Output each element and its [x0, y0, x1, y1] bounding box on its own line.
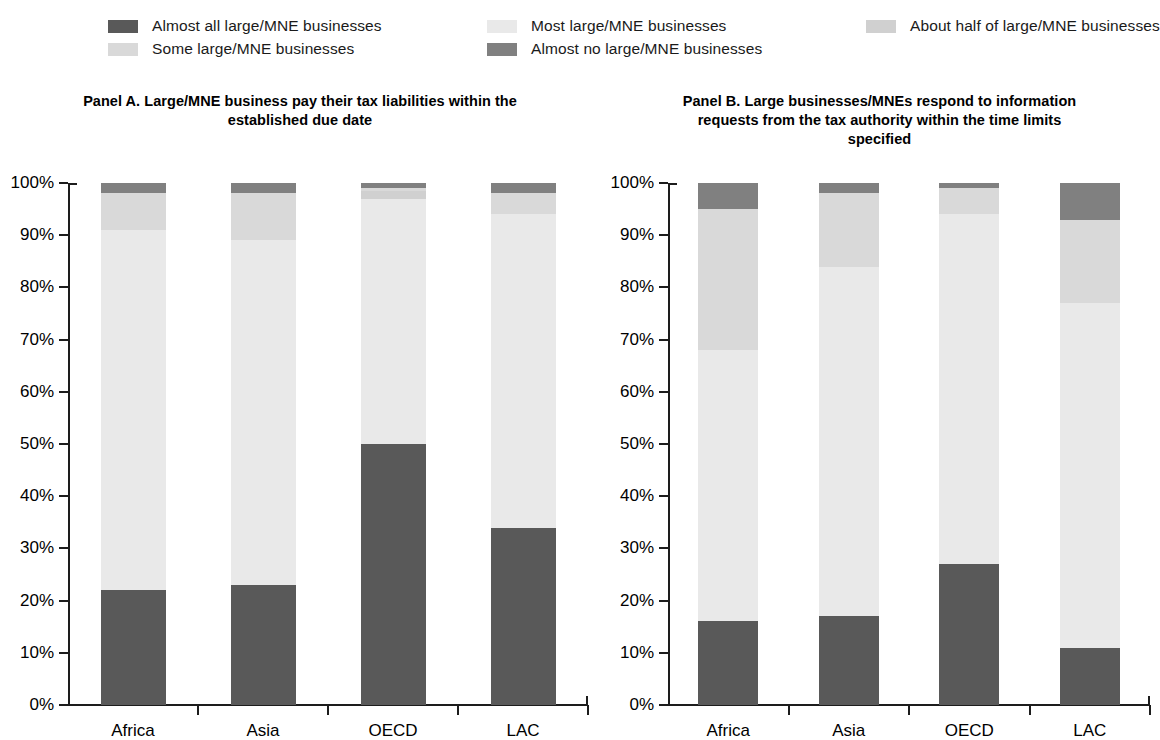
bar-segment: [698, 621, 758, 705]
bar-lac: [491, 183, 556, 705]
bar-asia: [819, 183, 879, 705]
bar-segment: [939, 188, 999, 214]
y-axis-label: 30%: [20, 538, 54, 558]
y-axis-tick: [659, 704, 668, 706]
panel-a: Panel A. Large/MNE business pay their ta…: [0, 92, 600, 130]
x-axis-label-africa: Africa: [707, 721, 750, 740]
bar-segment: [939, 214, 999, 564]
bar-segment: [101, 193, 166, 230]
bar-lac: [1060, 183, 1120, 705]
y-axis-tick: [659, 495, 668, 497]
y-axis-tick: [659, 443, 668, 445]
y-axis-tick: [59, 182, 68, 184]
y-axis-tick: [59, 652, 68, 654]
bar-africa: [101, 183, 166, 705]
bar-segment: [491, 214, 556, 527]
y-axis-tick: [59, 547, 68, 549]
x-axis-tick: [1029, 705, 1031, 715]
bar-segment: [231, 193, 296, 240]
legend-item-most: Most large/MNE businesses: [487, 18, 726, 34]
x-axis-label-africa: Africa: [111, 721, 154, 740]
x-axis-label-oecd: OECD: [945, 721, 994, 740]
y-axis-tick: [59, 286, 68, 288]
y-axis-label: 70%: [620, 330, 654, 350]
legend-label-almost-all: Almost all large/MNE businesses: [152, 18, 382, 34]
bar-segment: [698, 350, 758, 621]
y-axis-label: 100%: [611, 173, 654, 193]
y-axis-label: 80%: [20, 277, 54, 297]
legend-swatch-some: [108, 43, 138, 56]
x-axis-tick: [587, 705, 589, 715]
panel-b-title: Panel B. Large businesses/MNEs respond t…: [600, 92, 1159, 149]
x-axis-label-lac: LAC: [506, 721, 539, 740]
bar-segment: [819, 193, 879, 266]
y-axis-tick: [59, 495, 68, 497]
bar-segment: [1060, 220, 1120, 304]
bar-segment: [231, 585, 296, 705]
bar-segment: [361, 444, 426, 705]
bar-segment: [698, 209, 758, 350]
y-axis-tick: [59, 704, 68, 706]
y-axis-tick: [659, 234, 668, 236]
y-axis-label: 20%: [20, 591, 54, 611]
legend-label-almost-no: Almost no large/MNE businesses: [531, 41, 762, 57]
bar-segment: [939, 564, 999, 705]
bar-segment: [361, 199, 426, 444]
y-axis-label: 10%: [20, 643, 54, 663]
y-axis-label: 30%: [620, 538, 654, 558]
bar-segment: [101, 230, 166, 590]
y-axis-tick: [659, 182, 668, 184]
y-axis-tick: [59, 600, 68, 602]
y-axis-label: 50%: [20, 434, 54, 454]
y-axis-label: 40%: [20, 486, 54, 506]
y-axis-tick: [659, 391, 668, 393]
legend-label-most: Most large/MNE businesses: [531, 18, 726, 34]
x-axis-label-oecd: OECD: [368, 721, 417, 740]
bar-segment: [1060, 183, 1120, 220]
y-axis-tick: [659, 286, 668, 288]
y-axis-tick: [659, 652, 668, 654]
bar-segment: [698, 183, 758, 209]
bar-segment: [361, 191, 426, 199]
y-axis-tick: [59, 339, 68, 341]
y-axis-label: 20%: [620, 591, 654, 611]
legend-item-about-half: About half of large/MNE businesses: [866, 18, 1160, 34]
bar-asia: [231, 183, 296, 705]
y-axis-label: 90%: [620, 225, 654, 245]
panel-b: Panel B. Large businesses/MNEs respond t…: [600, 92, 1159, 149]
y-axis-label: 60%: [620, 382, 654, 402]
legend-swatch-about-half: [866, 20, 896, 33]
legend-swatch-almost-no: [487, 43, 517, 56]
bar-segment: [231, 240, 296, 585]
x-axis-tick: [457, 705, 459, 715]
y-axis-tick: [59, 443, 68, 445]
bar-segment: [101, 590, 166, 705]
bar-segment: [231, 183, 296, 193]
panel-a-plot-area: 0%10%20%30%40%50%60%70%80%90%100%AfricaA…: [68, 183, 588, 705]
x-axis-tick: [327, 705, 329, 715]
y-axis-tick: [659, 339, 668, 341]
bar-segment: [491, 193, 556, 214]
x-axis-tick: [1149, 705, 1151, 715]
bar-segment: [1060, 648, 1120, 705]
y-axis-label: 0%: [629, 695, 654, 715]
bar-segment: [491, 183, 556, 193]
panel-a-title: Panel A. Large/MNE business pay their ta…: [0, 92, 600, 130]
legend-item-almost-all: Almost all large/MNE businesses: [108, 18, 382, 34]
legend-swatch-almost-all: [108, 20, 138, 33]
y-axis-label: 90%: [20, 225, 54, 245]
y-axis-tick: [59, 391, 68, 393]
y-axis-label: 80%: [620, 277, 654, 297]
x-axis-tick: [788, 705, 790, 715]
legend-item-some: Some large/MNE businesses: [108, 41, 354, 57]
bar-oecd: [939, 183, 999, 705]
bar-segment: [819, 616, 879, 705]
y-axis-label: 0%: [29, 695, 54, 715]
x-axis-label-asia: Asia: [246, 721, 279, 740]
y-axis-label: 50%: [620, 434, 654, 454]
y-axis-tick: [659, 600, 668, 602]
y-axis-label: 60%: [20, 382, 54, 402]
legend-item-almost-no: Almost no large/MNE businesses: [487, 41, 762, 57]
bar-segment: [819, 267, 879, 617]
y-axis-label: 40%: [620, 486, 654, 506]
